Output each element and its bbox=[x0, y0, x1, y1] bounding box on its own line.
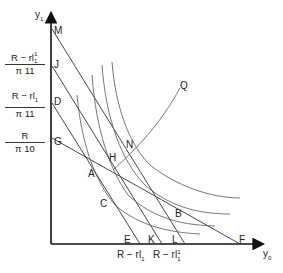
x-tick-R-rl1: R − rl1 bbox=[117, 250, 145, 264]
line-D-E bbox=[52, 103, 140, 244]
point-G: G bbox=[54, 137, 62, 147]
axes bbox=[51, 14, 262, 244]
point-C: C bbox=[100, 199, 107, 209]
point-Q: Q bbox=[180, 81, 188, 91]
y0-axis-label: y0 bbox=[263, 249, 271, 263]
x-tick-R-rl1-prime: R − rl11 bbox=[153, 250, 182, 260]
curve-2 bbox=[92, 75, 215, 226]
point-A: A bbox=[88, 169, 95, 179]
point-M: M bbox=[54, 26, 62, 36]
curve-3 bbox=[102, 65, 230, 214]
point-F: F bbox=[239, 235, 245, 245]
point-J: J bbox=[54, 60, 59, 70]
point-B: B bbox=[175, 209, 182, 219]
point-N: N bbox=[126, 140, 133, 150]
y-tick-rl1-over-pi11: R − rl1 π 11 bbox=[5, 90, 45, 119]
y-tick-R-over-pi10: R π 10 bbox=[5, 130, 45, 154]
curve-4 bbox=[112, 62, 240, 198]
point-H: H bbox=[109, 153, 116, 163]
point-E: E bbox=[124, 235, 131, 245]
point-D: D bbox=[54, 97, 61, 107]
expansion-path bbox=[113, 88, 180, 170]
point-K: K bbox=[148, 235, 155, 245]
line-M-L bbox=[52, 29, 185, 244]
point-L: L bbox=[172, 235, 178, 245]
y1-axis-label: y1 bbox=[35, 10, 43, 24]
line-J-K bbox=[52, 66, 162, 244]
line-G-F bbox=[52, 138, 240, 244]
y-tick-rl1-prime-over-pi11: R − rl11 π 11 bbox=[5, 52, 45, 76]
